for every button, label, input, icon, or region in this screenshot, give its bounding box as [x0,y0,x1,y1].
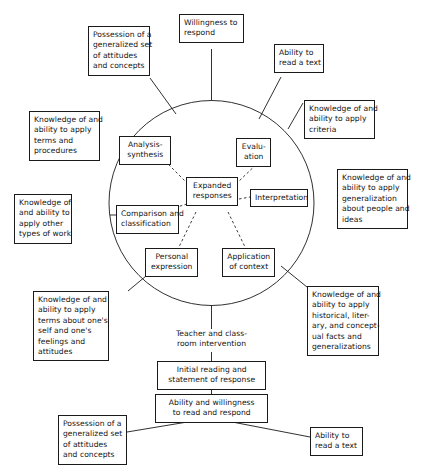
node-line: ability to apply [38,305,105,315]
node-line: Initial reading and [162,365,262,375]
node-evaluation[interactable]: Evalu- ation [236,138,271,167]
node-teacher-and-classroom-intervention[interactable]: Teacher and class- room intervention [163,329,260,350]
node-line: Knowledge of and [34,115,96,125]
node-expanded-responses[interactable]: Expanded responses [186,177,238,206]
node-willingness-to-respond[interactable]: Willingness to respond [179,14,244,43]
node-line: and concepts [93,61,146,71]
node-line: Ability to [315,431,359,441]
node-ability-to-read-a-text-bottom[interactable]: Ability to read a text [310,427,363,456]
node-line: Comparison and [121,209,175,219]
node-line: historical, liter- [312,311,375,321]
node-line: statement of response [162,375,262,385]
node-knowledge-apply-criteria[interactable]: Knowledge of and ability to apply criter… [304,100,375,139]
spoke-application-of-context [228,212,246,249]
node-line: types of work [19,229,68,239]
node-line: read a text [279,58,320,68]
node-line: criteria [309,125,371,135]
node-line: and concepts [63,450,123,460]
node-line: Possession of a [93,30,146,40]
node-analysis-synthesis[interactable]: Analysis- synthesis [119,136,171,165]
node-line: Interpretation [255,193,304,203]
node-line: ability to apply [34,125,96,135]
node-line: of attitudes [63,440,123,450]
edge-possession-top [150,78,176,114]
node-knowledge-apply-generalization[interactable]: Knowledge of and ability to apply genera… [337,169,408,229]
node-application-of-context[interactable]: Application of context [222,248,275,277]
edge-knowledge-criteria [288,103,303,129]
node-line: terms and [34,136,96,146]
node-line: Personal [150,252,194,262]
node-line: Knowledge of and [38,295,105,305]
node-personal-expression[interactable]: Personal expression [145,248,198,277]
node-line: classification [121,219,175,229]
node-line: generalized set [93,40,146,50]
node-line: synthesis [124,150,167,160]
node-possession-generalized-set-bottom[interactable]: Possession of a generalized set of attit… [58,415,127,465]
diagram-canvas: Possession of a generalized set of attit… [0,0,426,473]
node-line: ability to apply [309,114,371,124]
node-line: apply other [19,219,68,229]
node-knowledge-apply-terms-about-self[interactable]: Knowledge of and ability to apply terms … [33,291,109,361]
node-line: ability to apply [312,300,375,310]
node-line: attitudes [38,347,105,357]
node-ability-to-read-a-text-top[interactable]: Ability to read a text [274,44,324,73]
node-line: of context [227,262,271,272]
node-line: procedures [34,146,96,156]
node-knowledge-apply-terms-procedures[interactable]: Knowledge of and ability to apply terms … [29,111,100,161]
node-line: of attitudes [93,51,146,61]
node-possession-generalized-set-top[interactable]: Possession of a generalized set of attit… [88,26,150,76]
node-line: Expanded [191,181,234,191]
node-line: generalized set [63,429,123,439]
node-line: Analysis- [124,140,167,150]
node-knowledge-apply-other-types-of-work[interactable]: Knowledge of and ability to apply other … [14,194,72,244]
node-line: self and one's [38,326,105,336]
node-line: Ability and willingness [160,398,264,408]
node-line: Evalu- [241,142,267,152]
node-line: Knowledge of and [342,173,404,183]
node-comparison-and-classification[interactable]: Comparison and classification [116,205,179,234]
node-line: feelings and [38,337,105,347]
node-line: Application [227,252,271,262]
node-line: expression [150,262,194,272]
node-line: ation [241,152,267,162]
node-line: to read and respond [160,408,264,418]
node-line: and ability to [19,208,68,218]
node-line: responses [191,191,234,201]
node-line: ability to apply [342,183,404,193]
node-line: ary, and concept- [312,321,375,331]
node-line: about people and [342,204,404,214]
node-line: Knowledge of and [309,104,371,114]
node-ability-and-willingness-to-read-and-respond[interactable]: Ability and willingness to read and resp… [155,394,268,423]
node-line: generalization [342,194,404,204]
edge-knowledge-historical [281,266,307,287]
edge-ability-read-top [259,77,281,119]
node-line: Ability to [279,48,320,58]
node-interpretation[interactable]: Interpretation [250,189,308,207]
node-line: Knowledge of [19,198,68,208]
node-initial-reading-and-statement-of-response[interactable]: Initial reading and statement of respons… [157,361,266,390]
node-line: respond [184,28,240,38]
node-line: read a text [315,441,359,451]
node-line: room intervention [163,339,260,349]
node-line: Possession of a [63,419,123,429]
node-line: Teacher and class- [163,329,260,339]
node-line: ual facts and [312,332,375,342]
node-line: Knowledge of and [312,290,375,300]
node-line: terms about one's [38,316,105,326]
node-knowledge-apply-historical-literary[interactable]: Knowledge of and ability to apply histor… [307,286,379,356]
node-line: generalizations [312,342,375,352]
node-line: ideas [342,215,404,225]
node-line: Willingness to [184,18,240,28]
